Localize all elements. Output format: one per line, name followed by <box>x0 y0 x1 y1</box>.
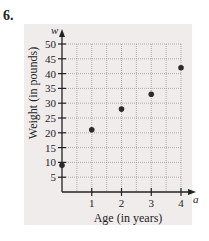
data-point <box>119 106 125 112</box>
y-axis-arrow-icon <box>59 29 65 37</box>
y-tick-label: 15 <box>45 142 57 154</box>
y-tick-label: 25 <box>45 112 57 124</box>
x-tick-label: 3 <box>149 197 155 209</box>
data-point <box>178 65 184 71</box>
y-tick-label: 5 <box>51 171 57 183</box>
y-axis-variable: w <box>51 24 59 36</box>
x-axis-label: Age (in years) <box>94 211 163 226</box>
x-tick-label: 4 <box>178 197 184 209</box>
y-tick-label: 20 <box>45 127 57 139</box>
data-point <box>59 163 65 169</box>
axis-ticks: 12345101520253035404550 <box>45 38 184 209</box>
x-tick-label: 2 <box>119 197 125 209</box>
data-point <box>148 92 154 98</box>
y-tick-label: 50 <box>45 38 57 50</box>
y-tick-label: 10 <box>45 156 57 168</box>
y-tick-label: 30 <box>45 97 57 109</box>
x-axis-variable: a <box>193 193 199 205</box>
y-axis-label: Weight (in pounds) <box>26 47 41 139</box>
axes: aw <box>51 24 199 205</box>
x-tick-label: 1 <box>89 197 95 209</box>
y-tick-label: 40 <box>45 68 57 80</box>
grid-lines <box>62 44 181 192</box>
data-point <box>89 127 95 133</box>
y-tick-label: 45 <box>45 53 57 65</box>
y-tick-label: 35 <box>45 82 57 94</box>
